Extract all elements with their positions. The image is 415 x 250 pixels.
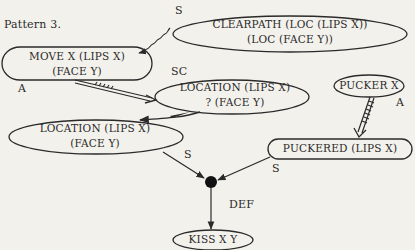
node-move-line2: (FACE Y) bbox=[2, 64, 152, 79]
edge-move-to-location-q bbox=[75, 80, 156, 103]
edge-label-move-a: A bbox=[18, 82, 26, 95]
node-pucker: PUCKER X bbox=[334, 78, 404, 93]
edge-puckered-to-junction bbox=[218, 157, 270, 180]
node-clearpath: CLEARPATH (LOC (LIPS X)) (LOC (FACE Y)) bbox=[190, 17, 390, 47]
edge-label-junction-def: DEF bbox=[229, 198, 254, 211]
node-location-q-line2: ? (FACE Y) bbox=[160, 95, 310, 110]
node-clearpath-line2: (LOC (FACE Y)) bbox=[190, 32, 390, 47]
diagram-title: Pattern 3. bbox=[4, 18, 61, 31]
node-clearpath-line1: CLEARPATH (LOC (LIPS X)) bbox=[190, 17, 390, 32]
node-puckered-line1: PUCKERED (LIPS X) bbox=[268, 141, 412, 156]
edge-label-clearpath-s: S bbox=[175, 4, 183, 17]
edge-label-puckered-s: S bbox=[272, 162, 280, 175]
node-location: LOCATION (LIPS X) (FACE Y) bbox=[20, 121, 170, 151]
node-move: MOVE X (LIPS X) (FACE Y) bbox=[2, 49, 152, 79]
node-kiss: KISS X Y bbox=[173, 232, 253, 247]
node-pucker-line1: PUCKER X bbox=[334, 78, 404, 93]
edge-label-location-s: S bbox=[184, 148, 192, 161]
edge-label-location-q-sc: SC bbox=[171, 65, 187, 78]
node-puckered: PUCKERED (LIPS X) bbox=[268, 141, 412, 156]
node-kiss-line1: KISS X Y bbox=[173, 232, 253, 247]
junction-dot bbox=[205, 176, 217, 188]
node-location-line2: (FACE Y) bbox=[20, 136, 170, 151]
node-location-q-line1: LOCATION (LIPS X) bbox=[160, 80, 310, 95]
node-location-line1: LOCATION (LIPS X) bbox=[20, 121, 170, 136]
edge-label-pucker-a: A bbox=[396, 96, 404, 109]
node-location-q: LOCATION (LIPS X) ? (FACE Y) bbox=[160, 80, 310, 110]
node-move-line1: MOVE X (LIPS X) bbox=[2, 49, 152, 64]
edge-pucker-to-puckered bbox=[354, 97, 374, 137]
